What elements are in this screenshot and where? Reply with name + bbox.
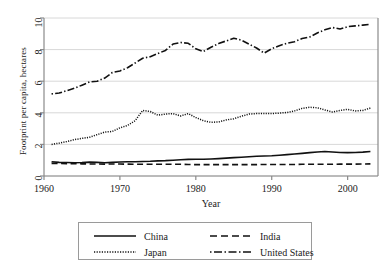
legend-item-china: China [93, 228, 168, 244]
series-line-india [52, 163, 371, 164]
chart-figure: Footprint per capita, hectares Year 0246… [0, 0, 390, 267]
legend-swatch-solid [93, 231, 137, 241]
series-line-united-states [52, 24, 371, 94]
legend-item-united-states: United States [209, 244, 314, 260]
plot-area [0, 0, 390, 200]
series-line-china [52, 152, 371, 163]
legend-item-india: India [209, 228, 281, 244]
legend-label-united-states: United States [253, 247, 314, 258]
legend-swatch-dotted [93, 247, 137, 257]
chart-legend: China India Japan United States [78, 222, 312, 260]
legend-label-india: India [253, 231, 281, 242]
legend-label-japan: Japan [137, 247, 167, 258]
legend-swatch-dashdot [209, 247, 253, 257]
legend-swatch-dashed [209, 231, 253, 241]
legend-label-china: China [137, 231, 168, 242]
legend-item-japan: Japan [93, 244, 167, 260]
